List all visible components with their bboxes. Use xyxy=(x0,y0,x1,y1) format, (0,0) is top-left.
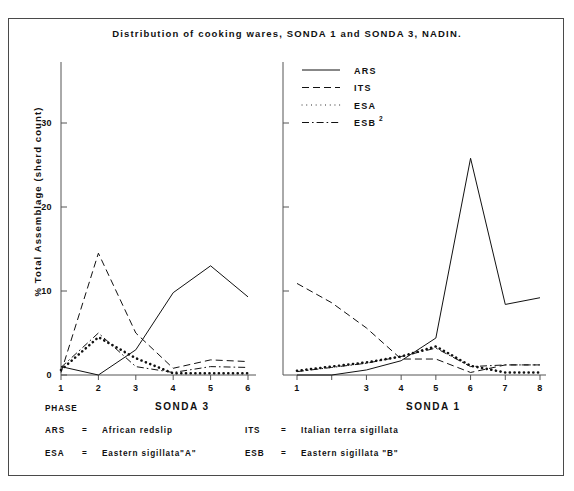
key-def-esb: Eastern sigillata "B" xyxy=(301,449,399,458)
svg-text:3: 3 xyxy=(133,383,138,393)
key-abbr-esa: ESA xyxy=(45,449,65,458)
svg-text:6: 6 xyxy=(468,383,473,393)
key-def-its: Italian terra sigillata xyxy=(301,426,399,435)
svg-text:6: 6 xyxy=(245,383,250,393)
svg-text:30: 30 xyxy=(41,118,52,128)
legend-label-esb: ESB xyxy=(354,118,376,128)
key-eq-esa: = xyxy=(82,449,88,458)
svg-text:0: 0 xyxy=(47,370,52,380)
phase-label: PHASE xyxy=(45,404,78,413)
svg-text:20: 20 xyxy=(41,202,52,212)
legend-label-ars: ARS xyxy=(354,66,377,76)
key-def-ars: African redslip xyxy=(102,426,173,435)
panel-label-sonda-3: SONDA 3 xyxy=(155,401,210,412)
key-abbr-esb: ESB xyxy=(245,449,265,458)
svg-text:4: 4 xyxy=(398,383,403,393)
series-right-panel xyxy=(297,158,540,375)
key-eq-its: = xyxy=(281,426,287,435)
key-abbr-ars: ARS xyxy=(45,426,65,435)
series-line-ars xyxy=(297,158,540,375)
series-line-esa xyxy=(61,337,248,373)
legend-superscript-esb: 2 xyxy=(379,115,383,122)
key-def-esa: Eastern sigillata"A" xyxy=(102,449,196,458)
key-eq-esb: = xyxy=(281,449,287,458)
svg-text:2: 2 xyxy=(96,383,101,393)
svg-text:1: 1 xyxy=(294,383,299,393)
key-abbr-its: ITS xyxy=(245,426,260,435)
legend-label-esa: ESA xyxy=(354,101,376,111)
panel-label-sonda-1: SONDA 1 xyxy=(406,401,461,412)
series-line-its xyxy=(61,253,248,372)
svg-text:10: 10 xyxy=(41,286,52,296)
svg-text:5: 5 xyxy=(208,383,213,393)
legend-group: ARSITSESAESB2 xyxy=(302,66,383,129)
series-left-panel xyxy=(61,253,248,375)
svg-text:8: 8 xyxy=(537,383,542,393)
axes-group: 01020301234561345678 xyxy=(41,62,546,393)
svg-text:7: 7 xyxy=(503,383,508,393)
legend-label-its: ITS xyxy=(354,83,372,93)
svg-text:4: 4 xyxy=(170,383,175,393)
svg-text:5: 5 xyxy=(433,383,438,393)
svg-text:1: 1 xyxy=(58,383,63,393)
svg-text:3: 3 xyxy=(364,383,369,393)
key-eq-ars: = xyxy=(82,426,88,435)
chart-canvas: 01020301234561345678 ARSITSESAESB2 xyxy=(0,0,574,491)
